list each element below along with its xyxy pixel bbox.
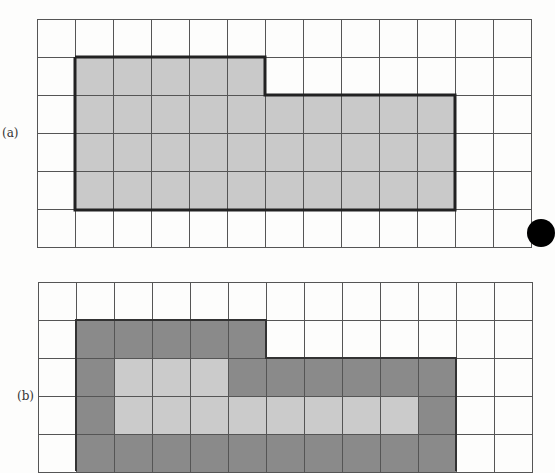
grid-cell [456, 58, 494, 96]
grid-cell [38, 210, 76, 248]
grid-cell [267, 435, 305, 473]
grid-cell [266, 58, 304, 96]
grid-cell [342, 20, 380, 58]
grid-cell [343, 321, 381, 359]
grid-cell [457, 397, 495, 435]
grid-cell [418, 20, 456, 58]
grid-cell [342, 96, 380, 134]
grid-cell [114, 58, 152, 96]
grid-cell [494, 96, 532, 134]
grid-cell [76, 172, 114, 210]
grid-cell [305, 321, 343, 359]
grid-cell [76, 58, 114, 96]
grid-cell [38, 172, 76, 210]
grid-cell [152, 20, 190, 58]
grid-cell [304, 210, 342, 248]
grid-cell [115, 397, 153, 435]
grid-cell [115, 321, 153, 359]
grid-cell [152, 172, 190, 210]
grid-cell [76, 210, 114, 248]
grid-cell [343, 435, 381, 473]
grid-cell [494, 210, 532, 248]
grid-cell [380, 172, 418, 210]
grid-cell [267, 359, 305, 397]
grid-cell [494, 58, 532, 96]
grid-cell [191, 321, 229, 359]
grid-cell [418, 134, 456, 172]
grid-cell [38, 134, 76, 172]
grid-cell [304, 20, 342, 58]
grid-cell [39, 397, 77, 435]
grid-cell [229, 283, 267, 321]
grid-cell [418, 96, 456, 134]
grid-cell [381, 397, 419, 435]
grid-cell [152, 134, 190, 172]
grid-cell [77, 435, 115, 473]
grid-cell [153, 283, 191, 321]
grid-cell [456, 134, 494, 172]
grid-cell [304, 96, 342, 134]
grid-cell [342, 58, 380, 96]
grid-cell [304, 172, 342, 210]
grid-cell [228, 58, 266, 96]
grid-cell [495, 321, 533, 359]
grid-cell [495, 397, 533, 435]
grid-cell [494, 20, 532, 58]
grid-cell [457, 359, 495, 397]
grid-cell [229, 397, 267, 435]
grid-cell [380, 210, 418, 248]
grid-cell [229, 321, 267, 359]
grid-cell [419, 397, 457, 435]
grid-cell [229, 435, 267, 473]
grid-cell [190, 210, 228, 248]
grid-cell [266, 210, 304, 248]
grid-cell [152, 58, 190, 96]
grid-cell [305, 283, 343, 321]
grid-cell [342, 134, 380, 172]
grid-cell [228, 210, 266, 248]
grid-cell [267, 283, 305, 321]
grid-cell [191, 435, 229, 473]
grid-cell [190, 134, 228, 172]
grid-cell [304, 58, 342, 96]
grid-cell [115, 435, 153, 473]
grid-cell [381, 283, 419, 321]
grid-cell [228, 134, 266, 172]
grid-cell [419, 359, 457, 397]
grid-cell [76, 20, 114, 58]
grid-cell [457, 435, 495, 473]
grid-cell [77, 397, 115, 435]
grid-cell [76, 96, 114, 134]
grid-cell [380, 96, 418, 134]
grid-cell [39, 321, 77, 359]
grid-cell [456, 96, 494, 134]
grid-cell [305, 435, 343, 473]
grid-cell [190, 172, 228, 210]
grid-cell [114, 134, 152, 172]
grid-cell [153, 397, 191, 435]
grid-cell [304, 134, 342, 172]
grid-figure-a [37, 19, 532, 248]
grid-cell [228, 96, 266, 134]
grid-cell [381, 321, 419, 359]
grid-cell [39, 283, 77, 321]
grid-cell [190, 20, 228, 58]
grid-cell [418, 172, 456, 210]
grid-cell [114, 172, 152, 210]
grid-cell [153, 359, 191, 397]
grid-cell [191, 283, 229, 321]
grid-cell [456, 20, 494, 58]
grid-cell [191, 397, 229, 435]
figure-a-label: (a) [2, 126, 19, 140]
grid-cell [266, 172, 304, 210]
figure-b-label: (b) [17, 389, 34, 403]
grid-cell [115, 283, 153, 321]
grid-cell [114, 20, 152, 58]
grid-cell [456, 210, 494, 248]
grid-cell [418, 210, 456, 248]
grid-cell [76, 134, 114, 172]
grid-cell [266, 20, 304, 58]
grid-cell [152, 96, 190, 134]
grid-cell [342, 172, 380, 210]
grid-cell [343, 283, 381, 321]
